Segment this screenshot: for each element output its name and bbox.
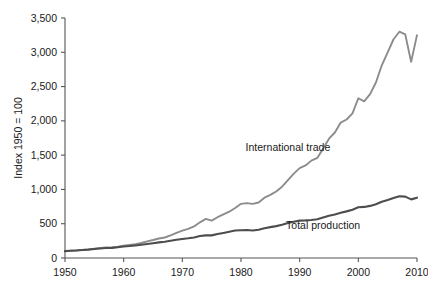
x-tick-label: 2000 <box>347 266 371 278</box>
y-tick-label: 3,000 <box>31 46 57 58</box>
y-tick-label: 1,000 <box>31 183 57 195</box>
y-tick-label: 0 <box>51 252 57 264</box>
y-tick-label: 500 <box>39 217 57 229</box>
x-tick-label: 1970 <box>171 266 195 278</box>
y-tick-label: 3,500 <box>31 12 57 24</box>
x-tick-label: 1960 <box>112 266 136 278</box>
y-axis-title: Index 1950 = 100 <box>12 97 24 179</box>
x-tick-label: 1950 <box>53 266 77 278</box>
chart-canvas: 05001,0001,5002,0002,5003,0003,500 19501… <box>0 0 428 295</box>
y-tick-label: 1,500 <box>31 149 57 161</box>
x-tick-label: 1980 <box>229 266 253 278</box>
x-tick-label: 1990 <box>288 266 312 278</box>
line-chart: 05001,0001,5002,0002,5003,0003,500 19501… <box>0 0 428 295</box>
series-label-international-trade: International trade <box>246 141 331 153</box>
y-tick-label: 2,500 <box>31 80 57 92</box>
y-tick-label: 2,000 <box>31 114 57 126</box>
series-label-total-production: Total production <box>286 219 360 231</box>
x-tick-label: 2010 <box>405 266 428 278</box>
